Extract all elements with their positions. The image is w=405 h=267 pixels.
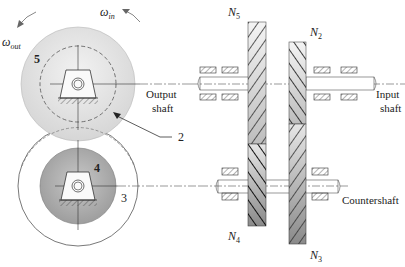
gear-4-label: 4 — [94, 161, 100, 175]
gear-5-label: 5 — [34, 52, 40, 66]
svg-text:ωout: ωout — [2, 35, 21, 51]
bearing-icon — [222, 67, 238, 73]
gear-3-label: 3 — [121, 191, 127, 205]
n2-label: N2 — [309, 25, 322, 41]
omega-out-arrow-icon — [20, 12, 36, 24]
bearing-icon — [312, 168, 328, 175]
svg-text:ωin: ωin — [100, 5, 115, 21]
bearing-icon — [222, 94, 238, 100]
bearing-icon — [314, 67, 330, 73]
gear-2-label: 2 — [178, 130, 184, 144]
n3-label: N3 — [309, 248, 322, 264]
input-shaft-label-2: shaft — [380, 102, 401, 114]
gear-n3-side — [289, 124, 306, 244]
bearing-icon — [341, 67, 357, 73]
gear-n4-side — [248, 144, 266, 226]
countershaft-label: Countershaft — [342, 194, 399, 206]
bearing-icon — [312, 193, 328, 200]
input-shaft-label: Input — [376, 88, 399, 100]
n5-label: N5 — [227, 5, 240, 21]
output-shaft-label: Output — [146, 88, 177, 100]
gear-n5-side — [248, 22, 266, 144]
gear-train-diagram: ωout ωin 5 4 3 Output shaft 2 — [0, 0, 405, 267]
output-shaft-label-2: shaft — [152, 102, 173, 114]
bearing-icon — [200, 67, 216, 73]
bearing-icon — [222, 193, 238, 200]
n4-label: N4 — [227, 229, 240, 245]
gear-n2-side — [289, 42, 306, 124]
bearing-icon — [341, 94, 357, 100]
bearing-icon — [222, 168, 238, 175]
bearing-icon — [314, 94, 330, 100]
bearing-icon — [200, 94, 216, 100]
